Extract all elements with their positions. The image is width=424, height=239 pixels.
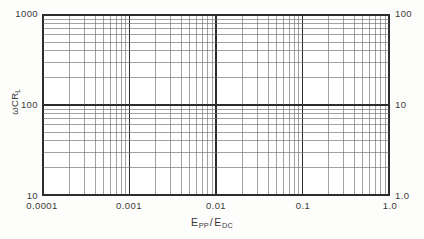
x-axis-title-numerator: E <box>191 216 199 228</box>
y-axis-right-tick-0: 100 <box>395 9 412 19</box>
x-axis-tick-3: 0.1 <box>277 201 329 211</box>
x-axis-tick-4: 1.0 <box>364 201 416 211</box>
x-axis-title-denominator-subscript: DC <box>222 221 233 230</box>
y-axis-right-tick-1: 10 <box>395 100 406 110</box>
y-axis-title: ωCRL <box>9 71 20 133</box>
x-axis-title: EPP/EDC <box>0 216 424 230</box>
log-log-chart-figure: 100010010 100101.0 0.00010.0010.010.11.0… <box>0 0 424 239</box>
y-axis-title-subscript: L <box>14 89 21 93</box>
y-axis-right-tick-2: 1.0 <box>395 191 409 201</box>
log-log-grid <box>43 15 389 195</box>
y-axis-title-body: CR <box>9 93 20 107</box>
x-axis-title-denominator: E <box>214 216 222 228</box>
y-axis-title-omega: ω <box>9 107 20 115</box>
y-axis-left-tick-0: 1000 <box>4 9 38 19</box>
x-axis-title-numerator-subscript: PP <box>199 221 209 230</box>
x-axis-tick-0: 0.0001 <box>16 201 68 211</box>
x-axis-tick-2: 0.01 <box>190 201 242 211</box>
x-axis-tick-1: 0.001 <box>103 201 155 211</box>
plot-area <box>42 14 390 196</box>
